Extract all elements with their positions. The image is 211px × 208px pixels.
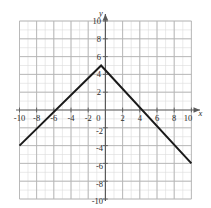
y-tick-label: -4 [96,143,104,153]
x-tick-label: -2 [85,113,92,123]
y-tick-labels: 10 8 6 4 2 -2 -4 -6 -8 -10 [92,16,104,206]
x-tick-label: 4 [138,113,143,123]
y-tick-label: -6 [96,161,103,171]
y-axis-arrow [103,14,109,21]
coordinate-plane: -10 -8 -6 -4 -2 2 4 6 8 10 10 8 6 4 2 -2… [0,0,211,208]
y-tick-label: -8 [96,179,103,189]
x-tick-label: -10 [14,113,25,123]
axis-lines [16,14,200,201]
x-tick-label: -4 [67,113,75,123]
graph-figure: -10 -8 -6 -4 -2 2 4 6 8 10 10 8 6 4 2 -2… [0,0,211,208]
origin-label: 0 [96,113,100,123]
y-tick-label: 2 [97,87,101,97]
x-tick-label: 8 [172,113,176,123]
y-tick-label: -2 [96,126,103,136]
x-axis-label: x [198,108,203,118]
x-tick-label: -8 [33,113,40,123]
y-tick-label: -10 [92,196,103,206]
x-tick-label: 6 [155,113,159,123]
y-axis-label: y [98,8,103,18]
y-tick-label: 6 [97,52,101,62]
x-tick-label: 10 [184,113,193,123]
y-tick-label: 8 [97,34,101,44]
x-tick-label: 2 [120,113,124,123]
